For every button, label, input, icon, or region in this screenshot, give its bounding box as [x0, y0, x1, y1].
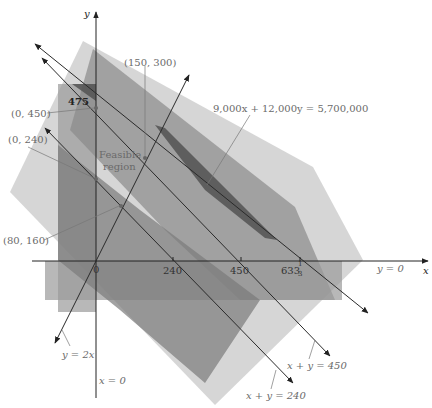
- tick-label-frac-num: 1: [298, 260, 302, 268]
- x-equals-0-label: x = 0: [99, 375, 126, 386]
- leader-l240: [271, 370, 276, 389]
- y-tick-475: 475: [68, 96, 89, 107]
- label-objective-line: 9,000x + 12,000y = 5,700,000: [213, 103, 368, 114]
- tick-label-frac-den: 3: [298, 270, 302, 278]
- feasible-region-line1: Feasible: [99, 149, 141, 160]
- leader-y2x: [62, 330, 70, 346]
- point-150-300: [143, 156, 147, 160]
- y-equals-0-label: y = 0: [376, 263, 404, 274]
- label-x-plus-y-450: x + y = 450: [287, 360, 347, 371]
- label-0-450: (0, 450): [11, 108, 51, 119]
- point-80-160: [119, 204, 123, 208]
- tick-label-240: 240: [163, 265, 182, 276]
- origin-label: 0: [93, 264, 99, 275]
- label-0-240: (0, 240): [8, 134, 48, 145]
- label-x-plus-y-240: x + y = 240: [246, 390, 306, 401]
- leader-l450: [309, 340, 315, 359]
- y-axis-label: y: [83, 8, 90, 19]
- tick-label-450: 450: [230, 265, 249, 276]
- point-0-450: [94, 106, 98, 110]
- linear-programming-graph: y x y = 0 x = 0 0 240 450 633 1 3 475 (0…: [0, 0, 432, 408]
- label-y-2x: y = 2x: [61, 349, 95, 360]
- x-axis-label: x: [423, 265, 429, 276]
- label-150-300: (150, 300): [124, 57, 176, 68]
- label-80-160: (80, 160): [3, 235, 49, 246]
- point-0-240: [94, 177, 98, 181]
- feasible-region-line2: region: [103, 161, 136, 172]
